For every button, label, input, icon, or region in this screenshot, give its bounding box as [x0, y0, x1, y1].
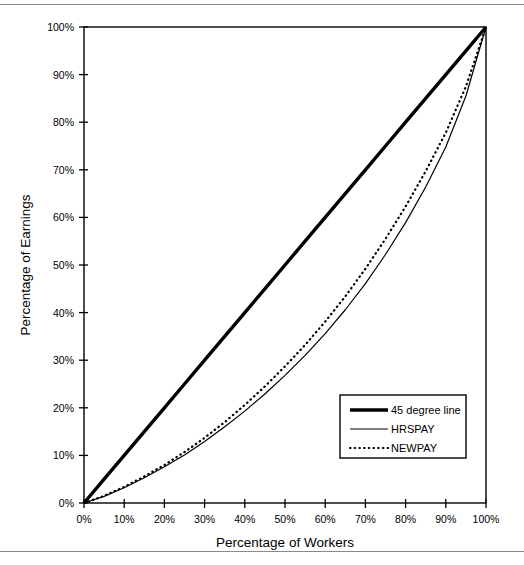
y-tick-label: 30% — [53, 354, 74, 366]
y-tick-label: 90% — [53, 69, 74, 81]
figure-container: 0%10%20%30%40%50%60%70%80%90%100% 0%10%2… — [0, 0, 524, 565]
lorenz-curve-chart: 0%10%20%30%40%50%60%70%80%90%100% 0%10%2… — [0, 0, 524, 565]
x-axis-tick-labels: 0%10%20%30%40%50%60%70%80%90%100% — [76, 513, 499, 525]
y-tick-label: 0% — [59, 497, 74, 509]
y-tick-label: 80% — [53, 116, 74, 128]
x-tick-label: 40% — [234, 513, 255, 525]
y-tick-label: 40% — [53, 307, 74, 319]
y-tick-label: 10% — [53, 449, 74, 461]
y-tick-label: 100% — [47, 21, 74, 33]
x-axis-title: Percentage of Workers — [216, 535, 354, 550]
x-tick-label: 90% — [435, 513, 456, 525]
x-tick-label: 10% — [114, 513, 135, 525]
legend-label-newpay: NEWPAY — [391, 442, 438, 454]
y-axis-title: Percentage of Earnings — [18, 194, 33, 335]
x-tick-label: 50% — [274, 513, 295, 525]
x-tick-label: 70% — [355, 513, 376, 525]
x-tick-label: 100% — [473, 513, 500, 525]
x-tick-label: 60% — [315, 513, 336, 525]
x-tick-label: 20% — [154, 513, 175, 525]
y-tick-label: 70% — [53, 164, 74, 176]
legend-label-hrspay: HRSPAY — [391, 423, 435, 435]
y-tick-label: 60% — [53, 211, 74, 223]
x-tick-label: 30% — [194, 513, 215, 525]
y-tick-label: 50% — [53, 259, 74, 271]
x-tick-label: 0% — [76, 513, 91, 525]
chart-legend: 45 degree lineHRSPAYNEWPAY — [340, 395, 466, 458]
legend-label-45-degree-line: 45 degree line — [391, 404, 461, 416]
x-tick-label: 80% — [395, 513, 416, 525]
y-axis-tick-labels: 0%10%20%30%40%50%60%70%80%90%100% — [47, 21, 74, 509]
y-tick-label: 20% — [53, 402, 74, 414]
